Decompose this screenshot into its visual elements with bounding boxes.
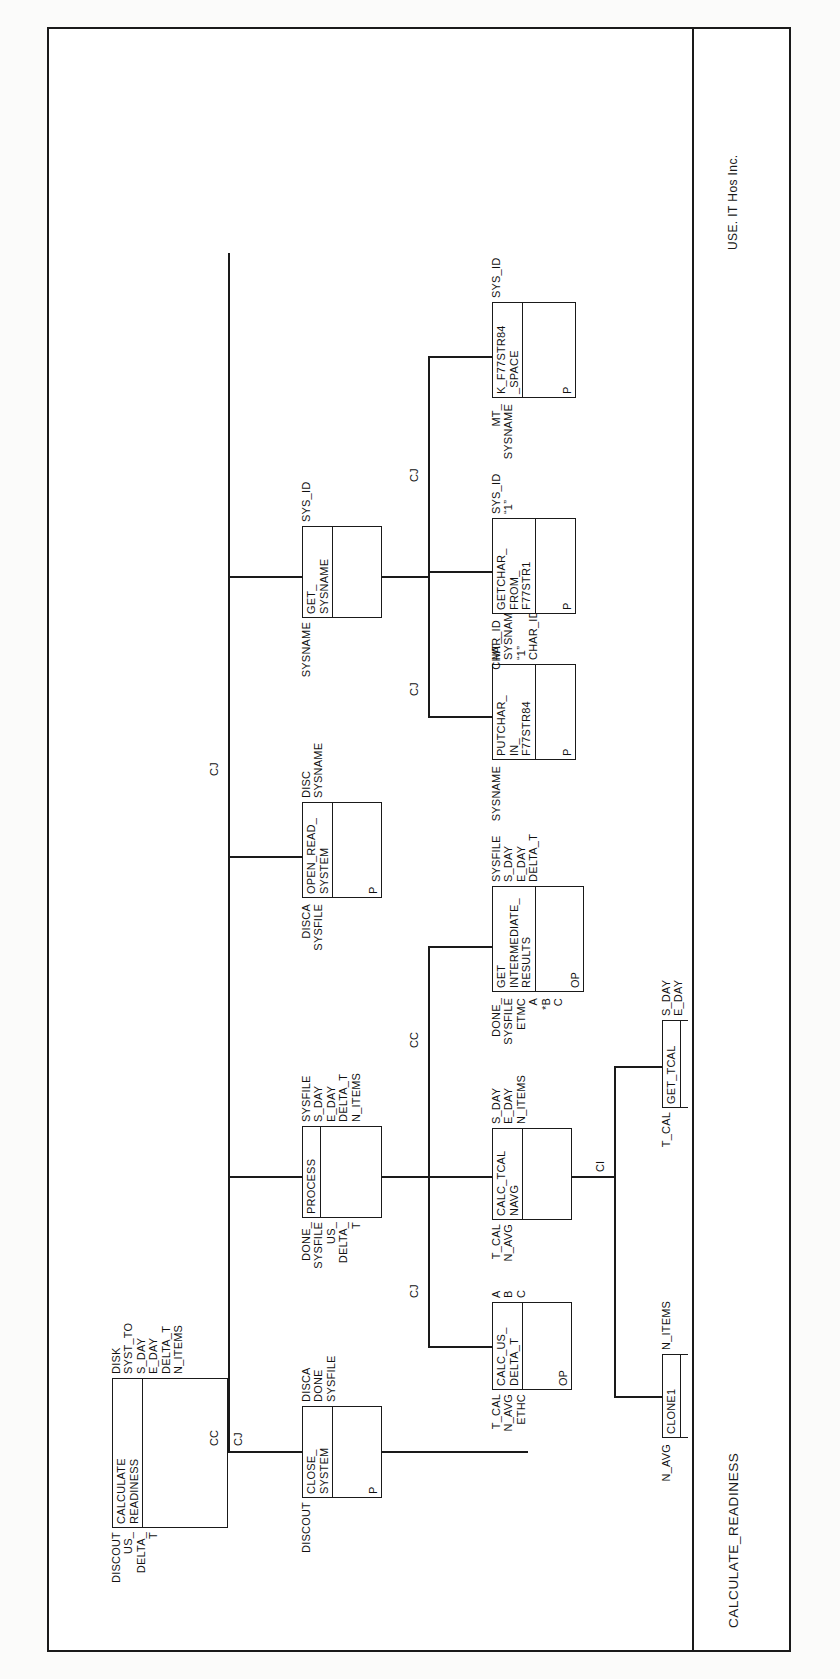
node-type: P <box>561 749 573 756</box>
port-outputs-get-tcal: S_DAY E_DAY <box>660 950 685 1016</box>
connector-level3-bus <box>614 1068 616 1398</box>
node-name: GETCHAR_ FROM_ F77STR1 <box>493 519 536 613</box>
port-inputs-putchar-in-f77str84: SYSNAME <box>490 766 502 848</box>
port-inputs-getchar-from-f77str1: CHAR_ID <box>490 620 502 698</box>
port-inputs-get-sysname: SYSNAME <box>300 622 312 710</box>
node-clone1[interactable]: CLONE1 P <box>662 1354 688 1438</box>
node-name: GET_TCAL <box>663 1021 681 1107</box>
port-outputs-get-sysname: SYS_ID <box>300 448 312 522</box>
port-inputs-calc-us-delta-t: T_CAL N_AVG ETHC <box>490 1394 527 1470</box>
connector-drop-process <box>228 1176 302 1178</box>
connector-drop-k-f77str84 <box>428 356 492 358</box>
connector-drop-calc-tcal-navg <box>428 1176 492 1178</box>
node-calc-us-delta-t[interactable]: CALC_US_ DELTA_T OP <box>492 1302 572 1390</box>
node-get-sysname[interactable]: GET_ SYSNAME <box>302 526 382 618</box>
node-getchar-from-f77str1[interactable]: GETCHAR_ FROM_ F77STR1 P <box>492 518 576 614</box>
control-label-get-sysname: CJ <box>208 763 220 776</box>
connector-drop-getchar <box>428 571 492 573</box>
node-name: OPEN_READ_ SYSTEM <box>303 803 333 897</box>
page-title: CALCULATE_READINESS <box>726 1453 741 1628</box>
node-get-intermediate-results[interactable]: GET INTERMEDIATE_ RESULTS OP <box>492 886 584 992</box>
control-label-getchar-from-f77str1: CJ <box>408 683 420 696</box>
drawing-sheet: CALCULATE_READINESS USE. IT Hos Inc. <box>0 0 840 1679</box>
node-name: CALC_TCAL NAVG <box>493 1129 523 1219</box>
node-close-system[interactable]: CLOSE_ SYSTEM P <box>302 1406 382 1498</box>
connector-get-sysname-spine <box>382 576 428 578</box>
connector-drop-calc-us-delta-t <box>428 1346 492 1348</box>
vendor-mark: USE. IT Hos Inc. <box>726 154 740 250</box>
connector-drop-clone1 <box>614 1396 662 1398</box>
structure-chart-canvas: CALCULATE READINESS DISCOUT US_ DELTA_ T… <box>52 30 688 1648</box>
port-outputs-process: SYSFILE S_DAY E_DAY DELTA_T N_ITEMS <box>300 1040 362 1122</box>
connector-drop-close-system <box>228 1451 302 1453</box>
connector-level2-bus-process <box>428 948 430 1348</box>
connector-drop-get-tcal <box>614 1066 662 1068</box>
port-inputs-k-f77str84-space: MT_ SYSNAME <box>490 404 515 488</box>
title-block-divider <box>692 27 694 1652</box>
node-name: GET INTERMEDIATE_ RESULTS <box>493 887 536 991</box>
node-name: PROCESS <box>303 1127 321 1217</box>
port-outputs-k-f77str84-space: SYS_ID <box>490 224 502 298</box>
port-inputs-close-system: DISCOUT <box>300 1502 312 1570</box>
port-outputs-close-system: DISCA DONE SYSFILE <box>300 1328 337 1402</box>
connector-level2-bus-sysname <box>428 358 430 718</box>
node-process[interactable]: PROCESS <box>302 1126 382 1218</box>
port-inputs-process: DONE_ SYSFILE US_ DELTA_ T <box>300 1222 362 1300</box>
node-putchar-in-f77str84[interactable]: PUTCHAR_ IN_ F77STR84 P <box>492 664 576 760</box>
node-name: CALC_US_ DELTA_T <box>493 1303 523 1389</box>
connector-calc-tcal-spine <box>572 1176 614 1178</box>
node-name: CLOSE_ SYSTEM <box>303 1407 333 1497</box>
node-get-tcal[interactable]: GET_TCAL <box>662 1020 688 1108</box>
node-type: P <box>367 887 379 894</box>
connector-drop-get-intermediate <box>428 946 492 948</box>
control-label-get-intermediate-results: CC <box>408 1032 420 1048</box>
node-type: OP <box>557 1370 569 1386</box>
port-inputs-calculate-readiness: DISCOUT US_ DELTA_ T <box>110 1532 160 1618</box>
control-label-process: CC <box>208 1430 220 1446</box>
node-name: CALCULATE READINESS <box>113 1379 143 1527</box>
node-name: CLONE1 <box>663 1355 681 1437</box>
node-k-f77str84-space[interactable]: K_F77STR84 _SPACE P <box>492 302 576 398</box>
node-type: P <box>367 1487 379 1494</box>
node-type: P <box>561 603 573 610</box>
connector-process-spine <box>382 1176 428 1178</box>
port-inputs-get-intermediate-results: DONE_ SYSFILE ETMC A *B C <box>490 998 564 1082</box>
node-calc-tcal-navg[interactable]: CALC_TCAL NAVG <box>492 1128 572 1220</box>
node-name: GET_ SYSNAME <box>303 527 333 617</box>
connector-drop-open-read-system <box>228 856 302 858</box>
control-label-calc-tcal-navg: CJ <box>408 1285 420 1298</box>
port-inputs-calc-tcal-navg: T_CAL N_AVG <box>490 1224 515 1304</box>
port-outputs-clone1: N_ITEMS <box>660 1278 672 1350</box>
node-open-read-system[interactable]: OPEN_READ_ SYSTEM P <box>302 802 382 898</box>
connector-level1-bus <box>228 253 230 1453</box>
control-label-root: CJ <box>232 1433 244 1446</box>
port-inputs-open-read-system: DISCA SYSFILE <box>300 904 325 976</box>
node-type: P <box>561 387 573 394</box>
control-label-get-tcal: CI <box>594 1161 606 1172</box>
port-inputs-clone1: N_AVG <box>660 1444 672 1516</box>
port-outputs-calculate-readiness: DISK SYST_TO S_DAY E_DAY DELTA_T N_ITEMS <box>110 1264 184 1374</box>
connector-drop-get-sysname <box>228 576 302 578</box>
control-label-k-f77str84-space: CJ <box>408 469 420 482</box>
port-outputs-open-read-system: DISC SYSNAME <box>300 712 325 798</box>
node-name: K_F77STR84 _SPACE <box>493 303 523 397</box>
node-calculate-readiness[interactable]: CALCULATE READINESS <box>112 1378 228 1528</box>
connector-drop-putchar <box>428 716 492 718</box>
port-inputs-get-tcal: T_CAL <box>660 1112 672 1188</box>
node-type: OP <box>569 972 581 988</box>
diagram-viewport: CALCULATE READINESS DISCOUT US_ DELTA_ T… <box>52 30 688 1648</box>
